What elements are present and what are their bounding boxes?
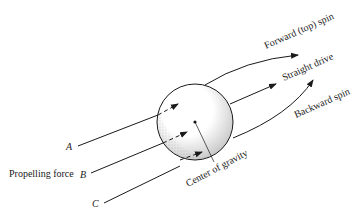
ball-spin-diagram: Forward (top) spin Straight drive Backwa…	[0, 0, 360, 219]
label-backward-spin: Backward spin	[292, 85, 351, 119]
label-propelling-force: Propelling force	[9, 168, 74, 179]
label-straight-drive: Straight drive	[280, 50, 335, 83]
label-force-b: B	[80, 169, 86, 180]
force-line-c	[104, 166, 180, 203]
straight-drive-arrow	[230, 84, 276, 104]
label-force-c: C	[92, 198, 99, 209]
force-line-b	[91, 143, 163, 173]
label-forward-spin: Forward (top) spin	[262, 10, 335, 51]
force-line-a	[78, 115, 158, 146]
label-force-a: A	[65, 141, 73, 152]
